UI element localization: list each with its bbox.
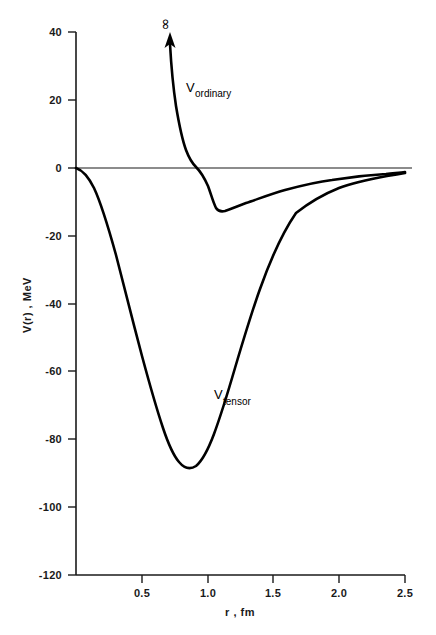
chart-svg: 40 20 0 -20 -40 -60 -80 -100 -120 0.5 1.… — [0, 0, 436, 635]
x-tick-label: 2.5 — [397, 587, 413, 599]
y-tick-label: -20 — [45, 230, 62, 242]
infinity-symbol: ∞ — [156, 18, 174, 31]
series-label-v-ordinary-main: V — [186, 80, 195, 95]
y-tick-label: -100 — [39, 501, 62, 513]
x-tick-label: 0.5 — [134, 587, 150, 599]
y-tick-label: -120 — [39, 569, 62, 581]
y-tick-label: -60 — [45, 365, 62, 377]
y-axis-title: V(r) , MeV — [21, 277, 33, 333]
y-tick-label: -80 — [45, 433, 62, 445]
potential-plot-figure: 40 20 0 -20 -40 -60 -80 -100 -120 0.5 1.… — [0, 0, 436, 635]
x-tick-label: 2.0 — [331, 587, 347, 599]
x-tick-label: 1.5 — [265, 587, 281, 599]
y-tick-label: 0 — [56, 162, 62, 174]
y-tick-label: 20 — [49, 94, 62, 106]
y-tick-label: -40 — [45, 298, 62, 310]
x-axis-title: r , fm — [225, 606, 255, 618]
y-tick-label: 40 — [49, 26, 62, 38]
series-label-v-tensor-main: V — [214, 387, 223, 402]
series-label-v-tensor-sub: tensor — [223, 396, 251, 407]
x-tick-label: 1.0 — [200, 587, 216, 599]
series-label-v-ordinary-sub: ordinary — [195, 88, 231, 99]
